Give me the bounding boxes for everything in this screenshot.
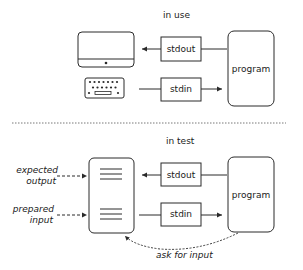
program-label-in-use: program [228,65,274,74]
section-title-in-use: in use [163,11,190,20]
ask-for-input-label: ask for input [156,251,213,260]
ask-for-input-arrow [125,233,238,249]
diagram-canvas [0,0,303,270]
prepared-input-label-line2: input [10,216,53,225]
expected-output-label-line2: output [14,177,56,186]
test-file-icon [89,158,134,233]
stdin-label-in-use: stdin [161,85,201,94]
stdout-label-in-test: stdout [161,171,201,180]
prepared-input-label-line1: prepared [10,205,54,214]
expected-output-label-line1: expected [14,166,58,175]
monitor-icon [78,32,134,67]
stdin-label-in-test: stdin [161,210,201,219]
keyboard-icon [85,78,124,98]
stdout-label-in-use: stdout [161,45,201,54]
program-label-in-test: program [228,191,274,200]
section-title-in-test: in test [166,137,194,146]
